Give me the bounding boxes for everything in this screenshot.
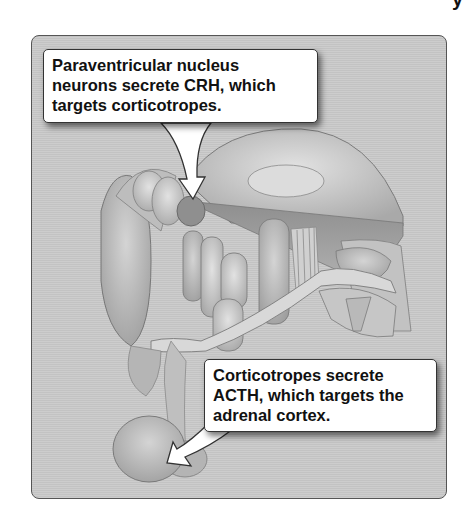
cropped-title-fragment: y (452, 0, 463, 11)
illustration-panel: Paraventricular nucleus neurons secrete … (31, 35, 447, 499)
callout-line: targets corticotropes. (52, 95, 309, 115)
callout-line: adrenal cortex. (213, 405, 428, 425)
callout-line: Paraventricular nucleus (52, 55, 309, 75)
callout-line: Corticotropes secrete (213, 365, 428, 385)
callout-paraventricular-nucleus: Paraventricular nucleus neurons secrete … (43, 49, 318, 123)
callout-line: ACTH, which targets the (213, 385, 428, 405)
callout-line: neurons secrete CRH, which (52, 75, 309, 95)
callout-corticotropes: Corticotropes secrete ACTH, which target… (204, 359, 437, 432)
